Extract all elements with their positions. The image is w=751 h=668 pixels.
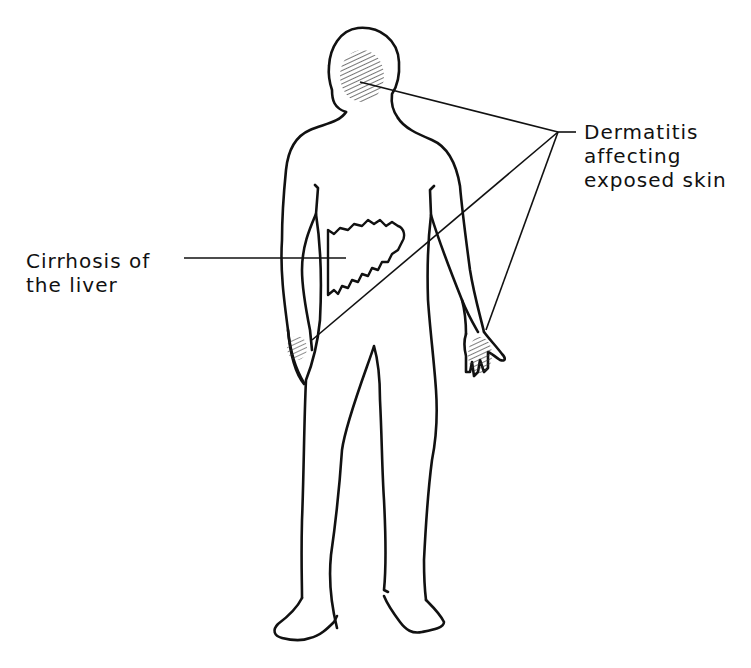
right-inner-arm bbox=[430, 186, 478, 332]
left-hand-shading bbox=[468, 337, 492, 373]
human-figure-diagram bbox=[0, 0, 751, 668]
cirrhosis-label: Cirrhosis of the liver bbox=[26, 249, 150, 297]
left-inner-arm bbox=[302, 185, 318, 350]
face-shading bbox=[340, 50, 384, 102]
dermatitis-label: Dermatitis affecting exposed skin bbox=[584, 120, 727, 192]
left-torso-side bbox=[302, 214, 321, 598]
left-foot bbox=[275, 598, 337, 640]
leader-dermatitis-wrist bbox=[312, 132, 558, 340]
body-outline bbox=[275, 28, 505, 640]
dermatitis-label-line-1: Dermatitis bbox=[584, 120, 727, 144]
cirrhosis-label-line-1: Cirrhosis of bbox=[26, 249, 150, 273]
dermatitis-label-line-3: exposed skin bbox=[584, 168, 727, 192]
dermatitis-shading bbox=[287, 50, 492, 373]
right-foot bbox=[384, 596, 444, 633]
right-shoulder-outline bbox=[398, 118, 484, 332]
right-wrist-shading bbox=[287, 336, 307, 360]
inner-legs bbox=[330, 346, 388, 628]
leader-dermatitis-face bbox=[360, 82, 558, 132]
right-torso-side bbox=[424, 215, 437, 600]
leader-lines bbox=[184, 82, 576, 340]
dermatitis-label-line-2: affecting bbox=[584, 144, 727, 168]
cirrhosis-label-line-2: the liver bbox=[26, 273, 150, 297]
